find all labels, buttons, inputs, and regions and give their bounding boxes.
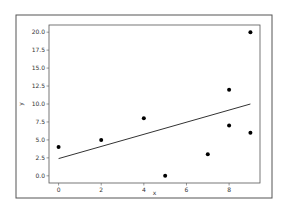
y-tick-label: 2.5 [35, 154, 45, 161]
x-tick-label: 4 [142, 186, 146, 193]
y-tick-label: 15.0 [32, 64, 46, 71]
y-tick-label: 7.5 [35, 118, 45, 125]
y-tick-label: 0.0 [35, 172, 45, 179]
y-tick-label: 12.5 [32, 82, 46, 89]
data-point [99, 138, 103, 142]
data-point [57, 145, 61, 149]
x-axis-label: x [153, 189, 157, 196]
y-axis-label: y [17, 102, 25, 106]
data-point [206, 152, 210, 156]
data-point [227, 124, 231, 128]
y-tick-label: 20.0 [32, 28, 46, 35]
x-tick-label: 8 [227, 186, 231, 193]
data-point [248, 131, 252, 135]
data-point [227, 88, 231, 92]
x-tick-label: 0 [57, 186, 61, 193]
scatter-chart: 0.02.55.07.510.012.515.017.520.0 02468 x… [0, 0, 284, 222]
x-tick-label: 2 [99, 186, 103, 193]
data-point [248, 30, 252, 34]
y-tick-label: 5.0 [35, 136, 45, 143]
x-tick-label: 6 [185, 186, 189, 193]
data-point [142, 116, 146, 120]
plot-area [49, 25, 260, 183]
y-tick-label: 10.0 [32, 100, 46, 107]
data-point [163, 174, 167, 178]
y-tick-label: 17.5 [32, 46, 46, 53]
